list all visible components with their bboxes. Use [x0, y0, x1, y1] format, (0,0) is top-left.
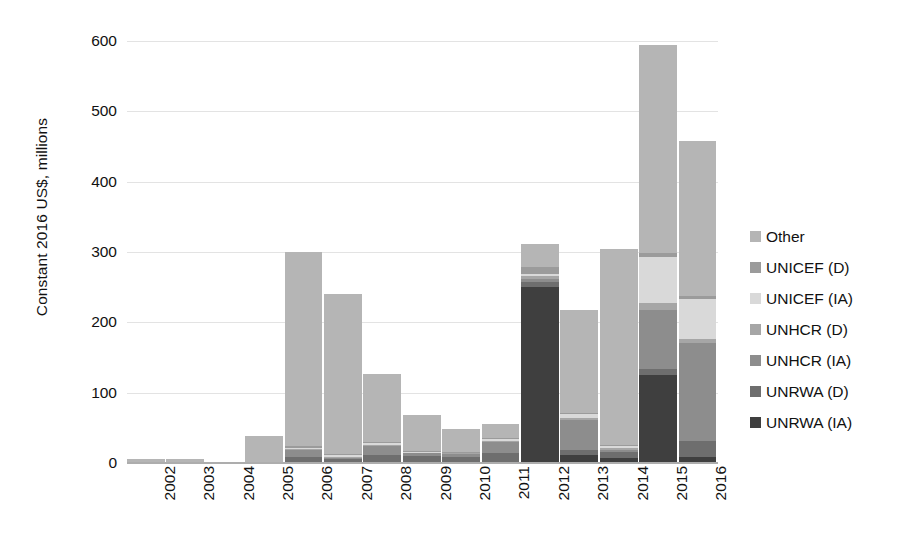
legend-label: UNRWA (D) [766, 383, 849, 401]
bar-segment[interactable] [679, 299, 717, 339]
bar-segment[interactable] [679, 141, 717, 296]
bar-segment[interactable] [363, 455, 401, 462]
bar-segment[interactable] [560, 450, 598, 456]
bar-segment[interactable] [324, 454, 362, 455]
bar-segment[interactable] [285, 252, 323, 446]
bar-column-2012[interactable] [521, 41, 559, 463]
bar-segment[interactable] [521, 287, 559, 463]
legend-item-unrwa-d[interactable]: UNRWA (D) [750, 376, 918, 407]
bar-segment[interactable] [560, 418, 598, 420]
bar-segment[interactable] [639, 253, 677, 257]
legend-item-unicef-ia[interactable]: UNICEF (IA) [750, 283, 918, 314]
bar-segment[interactable] [679, 343, 717, 441]
bar-segment[interactable] [639, 369, 677, 375]
bar-column-2008[interactable] [363, 41, 401, 463]
bar-segment[interactable] [324, 455, 362, 456]
y-axis-tick-label: 0 [61, 455, 117, 471]
bar-segment[interactable] [560, 310, 598, 413]
bar-segment[interactable] [403, 452, 441, 453]
bar-segment[interactable] [560, 413, 598, 414]
legend-item-other[interactable]: Other [750, 221, 918, 252]
bar-column-2003[interactable] [166, 41, 204, 463]
bar-segment[interactable] [560, 420, 598, 450]
legend-item-unrwa-ia[interactable]: UNRWA (IA) [750, 407, 918, 438]
bar-column-2011[interactable] [482, 41, 520, 463]
bar-column-2014[interactable] [600, 41, 638, 463]
legend-label: UNICEF (D) [766, 259, 850, 277]
bar-segment[interactable] [560, 414, 598, 418]
bar-segment[interactable] [482, 442, 520, 453]
bar-segment[interactable] [324, 294, 362, 454]
bar-segment[interactable] [482, 441, 520, 442]
chart-legend: OtherUNICEF (D)UNICEF (IA)UNHCR (D)UNHCR… [750, 221, 918, 438]
bar-column-2004[interactable] [206, 41, 244, 463]
bar-segment[interactable] [403, 415, 441, 451]
bar-column-2006[interactable] [285, 41, 323, 463]
bar-segment[interactable] [403, 451, 441, 452]
bar-segment[interactable] [482, 438, 520, 439]
bar-segment[interactable] [639, 257, 677, 303]
bar-column-2002[interactable] [127, 41, 165, 463]
bar-segment[interactable] [679, 441, 717, 456]
legend-label: UNHCR (IA) [766, 352, 851, 370]
bar-column-2010[interactable] [442, 41, 480, 463]
bar-segment[interactable] [285, 446, 323, 447]
bar-segment[interactable] [442, 452, 480, 453]
bar-column-2016[interactable] [679, 41, 717, 463]
legend-item-unicef-d[interactable]: UNICEF (D) [750, 252, 918, 283]
bar-segment[interactable] [245, 436, 283, 463]
bar-column-2013[interactable] [560, 41, 598, 463]
bar-segment[interactable] [363, 443, 401, 444]
bar-segment[interactable] [639, 45, 677, 253]
bar-segment[interactable] [482, 453, 520, 461]
bar-segment[interactable] [403, 452, 441, 453]
bar-segment[interactable] [639, 310, 677, 369]
bar-segment[interactable] [403, 453, 441, 456]
bar-segment[interactable] [639, 375, 677, 463]
bar-segment[interactable] [285, 448, 323, 449]
bar-segment[interactable] [600, 249, 638, 445]
bar-segment[interactable] [324, 457, 362, 458]
bar-segment[interactable] [679, 296, 717, 299]
x-axis-tick-label-2015: 2015 [674, 466, 690, 536]
bar-segment[interactable] [521, 267, 559, 274]
bar-segment[interactable] [521, 274, 559, 276]
bar-segment[interactable] [521, 244, 559, 267]
legend-item-unhcr-d[interactable]: UNHCR (D) [750, 314, 918, 345]
bar-segment[interactable] [521, 279, 559, 283]
x-axis-tick-label-2014: 2014 [635, 466, 651, 536]
bar-segment[interactable] [521, 282, 559, 287]
bar-column-2009[interactable] [403, 41, 441, 463]
bar-segment[interactable] [521, 276, 559, 279]
bar-segment[interactable] [482, 424, 520, 437]
bar-segment[interactable] [363, 442, 401, 443]
bar-segment[interactable] [442, 454, 480, 457]
x-axis-tick-label-2005: 2005 [280, 466, 296, 536]
bar-segment[interactable] [285, 457, 323, 461]
bar-segment[interactable] [442, 429, 480, 452]
y-axis-tick-label: 600 [61, 33, 117, 49]
bar-segment[interactable] [363, 374, 401, 442]
legend-swatch-icon [750, 262, 761, 273]
bar-segment[interactable] [363, 445, 401, 446]
bar-segment[interactable] [600, 448, 638, 449]
bar-segment[interactable] [600, 445, 638, 446]
bar-segment[interactable] [639, 303, 677, 310]
bar-segment[interactable] [679, 339, 717, 343]
bar-segment[interactable] [482, 439, 520, 440]
x-axis-tick-label-2013: 2013 [595, 466, 611, 536]
bar-segment[interactable] [285, 449, 323, 450]
bar-column-2015[interactable] [639, 41, 677, 463]
bar-segment[interactable] [285, 450, 323, 457]
bar-segment[interactable] [600, 450, 638, 453]
bar-segment[interactable] [600, 452, 638, 458]
bar-column-2007[interactable] [324, 41, 362, 463]
bar-segment[interactable] [442, 452, 480, 453]
legend-item-unhcr-ia[interactable]: UNHCR (IA) [750, 345, 918, 376]
bar-column-2005[interactable] [245, 41, 283, 463]
legend-label: Other [766, 228, 805, 246]
bar-segment[interactable] [442, 453, 480, 454]
bar-segment[interactable] [363, 446, 401, 454]
bar-segment[interactable] [600, 446, 638, 448]
bar-segment[interactable] [324, 458, 362, 459]
